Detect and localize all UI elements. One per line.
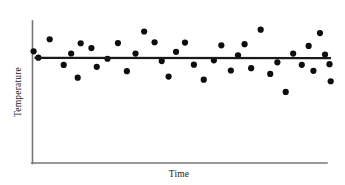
data-point [124, 68, 130, 74]
data-point [61, 62, 67, 68]
data-point [328, 78, 334, 84]
data-point [165, 73, 171, 79]
data-points-group [30, 27, 333, 95]
data-point [182, 39, 188, 45]
data-point [241, 41, 247, 47]
data-point [274, 59, 280, 65]
data-point [47, 36, 53, 42]
data-point [299, 62, 305, 68]
data-point [115, 40, 121, 46]
data-point [78, 40, 84, 46]
data-point [322, 51, 328, 57]
data-point [317, 30, 323, 36]
data-point [94, 64, 100, 70]
data-point [191, 62, 197, 68]
data-point [173, 49, 179, 55]
data-point [306, 43, 312, 49]
data-point [310, 68, 316, 74]
data-point [228, 67, 234, 73]
data-point [75, 75, 81, 81]
data-point [151, 39, 157, 45]
data-point [218, 42, 224, 48]
data-point [132, 50, 138, 56]
plot-canvas: Time Temperature [0, 0, 345, 185]
data-point [258, 27, 264, 33]
data-point [68, 50, 74, 56]
data-point [326, 61, 332, 67]
data-point [290, 50, 296, 56]
data-point [283, 89, 289, 95]
data-point [248, 65, 254, 71]
data-point [267, 71, 273, 77]
data-point [30, 48, 36, 54]
data-point [141, 28, 147, 34]
x-axis-label: Time [169, 169, 190, 179]
y-axis-label: Temperature [13, 67, 23, 117]
scatter-plot-figure: Time Temperature [0, 0, 345, 185]
data-point [88, 45, 94, 51]
data-point [201, 77, 207, 83]
